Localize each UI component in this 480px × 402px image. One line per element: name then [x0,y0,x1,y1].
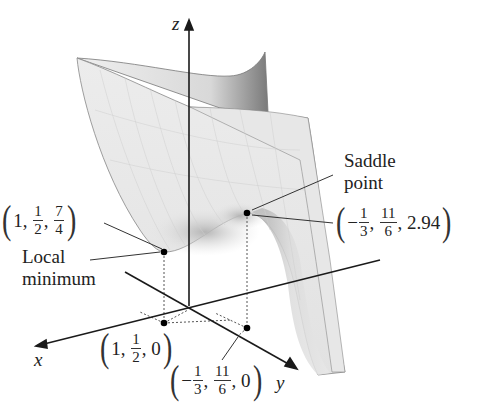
saddle-coords: ( − 13, 116, 2.94 ) [334,202,454,242]
local-min-dot [161,249,168,256]
diagram-canvas: z x y ( 1, 12, 74 ) Local minimum ( 1, 1… [0,0,480,402]
y-axis-arrow [285,358,297,369]
z-axis-arrow [185,20,193,30]
saddle-title: Saddle point [344,150,396,194]
local-min-title: Local minimum [22,246,96,290]
saddle-projection-dot [244,325,251,332]
local-min-projection-coords: ( 1, 12, 0 ) [98,328,174,368]
saddle-projection-coords: ( − 13, 116, 0 ) [168,360,264,400]
x-axis-label: x [34,350,42,369]
x-axis-arrow [36,340,47,348]
local-min-coords: ( 1, 12, 74 ) [0,200,78,240]
y-axis-label: y [276,373,284,392]
saddle-dot [244,210,251,217]
z-axis-label: z [172,14,179,33]
